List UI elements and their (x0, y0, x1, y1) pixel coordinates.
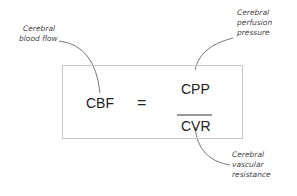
equals-sign: = (137, 95, 146, 111)
cbf-annotation: Cerebral blood flow (19, 24, 58, 44)
cpp-numerator: CPP (181, 82, 210, 96)
cvr-annotation: Cerebral vascular resistance (232, 150, 271, 180)
cvr-annotation-line: vascular (232, 160, 271, 170)
cpp-annotation-line: pressure (237, 28, 272, 38)
cvr-annotation-line: Cerebral (232, 150, 271, 160)
cbf-annotation-line: blood flow (19, 34, 58, 44)
cvr-annotation-line: resistance (232, 170, 271, 180)
cpp-annotation: Cerebral perfusion pressure (237, 8, 272, 38)
cpp-annotation-line: Cerebral (237, 8, 272, 18)
cbf-equation-diagram: CBF = CPP CVR Cerebral blood flow Cerebr… (0, 0, 297, 196)
cbf-term: CBF (86, 96, 114, 110)
cbf-annotation-line: Cerebral (19, 24, 58, 34)
cpp-annotation-line: perfusion (237, 18, 272, 28)
cvr-denominator: CVR (181, 119, 211, 133)
